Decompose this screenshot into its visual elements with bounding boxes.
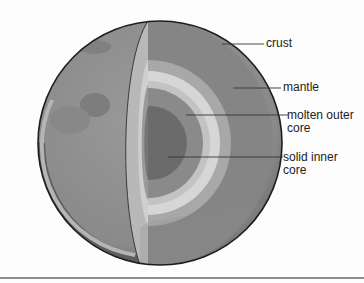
bottom-divider: [0, 277, 364, 279]
label-mantle: mantle: [283, 81, 319, 94]
earth-layers-diagram: [0, 0, 364, 283]
label-inner-core: solid inner core: [283, 151, 338, 177]
label-crust: crust: [266, 37, 292, 50]
label-inner-core-line2: core: [283, 164, 338, 177]
label-outer-core-line2: core: [287, 122, 354, 135]
label-outer-core: molten outer core: [287, 109, 354, 135]
